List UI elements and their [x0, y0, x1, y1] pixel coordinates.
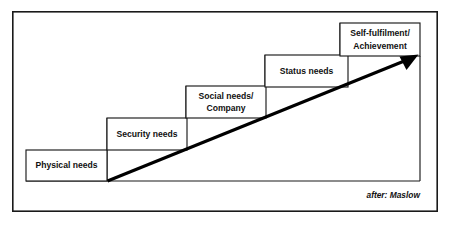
step-label-status-needs: Status needs — [280, 66, 334, 76]
step-label-social-needs-line1: Social needs/ — [199, 91, 255, 101]
maslow-diagram-figure: Physical needs Security needs Social nee… — [0, 0, 450, 230]
step-security-needs[interactable]: Security needs — [107, 118, 187, 150]
credit-after-maslow: after: Maslow — [366, 190, 420, 200]
step-label-social-needs-line2: Company — [206, 103, 245, 113]
step-label-self-fulfilment-line2: Achievement — [353, 41, 407, 51]
step-status-needs[interactable]: Status needs — [265, 55, 348, 87]
step-label-self-fulfilment-line1: Self-fulfilment/ — [350, 28, 410, 38]
step-label-security-needs: Security needs — [116, 129, 177, 139]
step-self-fulfilment-achievement[interactable]: Self-fulfilment/ Achievement — [340, 23, 420, 56]
step-social-needs-company[interactable]: Social needs/ Company — [186, 86, 266, 118]
step-label-physical-needs: Physical needs — [35, 160, 97, 170]
step-physical-needs[interactable]: Physical needs — [26, 150, 107, 181]
maslow-diagram-canvas: Physical needs Security needs Social nee… — [0, 0, 450, 230]
